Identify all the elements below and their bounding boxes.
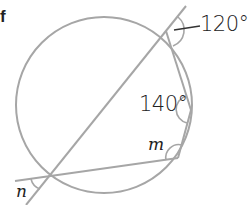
angle-label-120: 120° <box>200 14 248 35</box>
chord-right-to-m <box>178 110 191 158</box>
pointer-120 <box>174 26 200 30</box>
angle-label-m: m <box>148 136 164 153</box>
angle-arc-n <box>31 179 40 189</box>
angle-label-n: n <box>16 183 27 200</box>
angle-label-140: 140° <box>139 94 188 115</box>
